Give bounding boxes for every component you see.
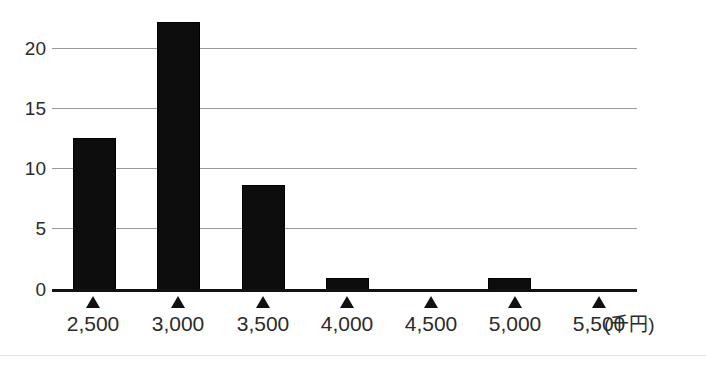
- x-tick-label-3500: 3,500: [218, 312, 308, 336]
- bar-3500: [242, 185, 285, 290]
- x-marker-2500: [86, 296, 100, 308]
- x-marker-4500: [424, 296, 438, 308]
- x-marker-3000: [171, 296, 185, 308]
- x-marker-4000: [340, 296, 354, 308]
- y-tick-label-5: 5: [12, 219, 46, 238]
- y-axis-tick-labels: 20 15 10 5 0: [0, 0, 46, 365]
- x-tick-label-4500: 4,500: [386, 312, 476, 336]
- y-tick-label-15: 15: [12, 99, 46, 118]
- bar-2500: [73, 138, 116, 290]
- bar-3000: [157, 22, 200, 290]
- x-axis-baseline: [52, 289, 637, 292]
- x-axis-unit-label: (千円): [604, 314, 655, 336]
- x-tick-label-4000: 4,000: [302, 312, 392, 336]
- y-tick-label-20: 20: [12, 39, 46, 58]
- x-tick-label-3000: 3,000: [133, 312, 223, 336]
- y-tick-label-10: 10: [12, 159, 46, 178]
- y-tick-label-0: 0: [12, 280, 46, 299]
- gridline-5: [52, 228, 637, 229]
- gridline-10: [52, 168, 637, 169]
- gridline-20: [52, 48, 637, 49]
- gridline-15: [52, 108, 637, 109]
- histogram-chart: 20 15 10 5 0 2,500 3,000 3,500 4,000 4,5…: [0, 0, 706, 365]
- x-marker-5500: [592, 296, 606, 308]
- x-marker-3500: [256, 296, 270, 308]
- x-tick-label-5000: 5,000: [470, 312, 560, 336]
- x-marker-5000: [508, 296, 522, 308]
- plot-area: [52, 10, 637, 290]
- x-tick-label-2500: 2,500: [48, 312, 138, 336]
- bottom-divider: [0, 355, 706, 356]
